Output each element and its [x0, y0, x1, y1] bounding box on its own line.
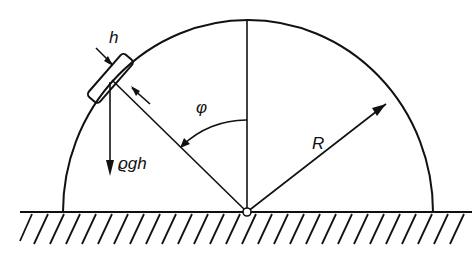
weight-label: ϱgh [118, 154, 147, 174]
radius-label: R [312, 134, 324, 154]
dome-arc [63, 20, 433, 212]
dome-diagram: h ϱgh φ R [0, 0, 472, 259]
angle-arc [182, 120, 247, 146]
center-point [243, 208, 251, 216]
weight-arrowhead-icon [106, 160, 114, 176]
diagram-graphics [0, 0, 472, 259]
angle-label: φ [196, 98, 207, 118]
radius-line [247, 104, 386, 212]
ground-hatching [20, 214, 464, 244]
element-radius-line [112, 80, 247, 212]
thickness-label: h [109, 28, 118, 48]
